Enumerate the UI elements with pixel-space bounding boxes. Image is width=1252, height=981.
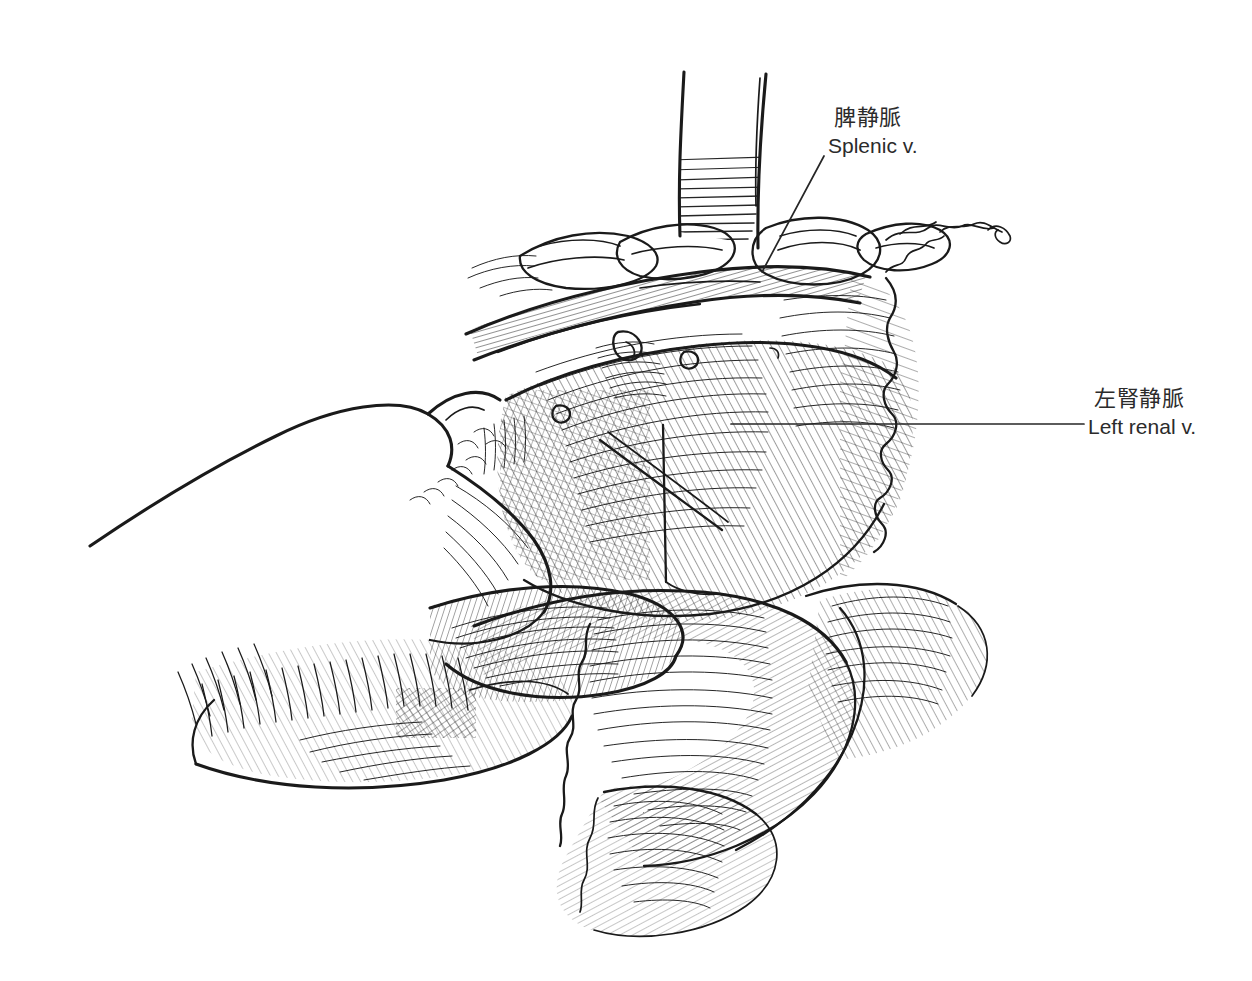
label-splenic-vein-en: Splenic v. (828, 132, 918, 160)
label-left-renal-vein-en: Left renal v. (1088, 413, 1196, 441)
label-left-renal-vein-jp: 左腎静脈 (1088, 385, 1196, 413)
label-splenic-vein: 脾静脈 Splenic v. (828, 104, 918, 160)
bowel-crosshatch-patch (396, 688, 476, 738)
anatomical-illustration: .o{fill:none;stroke:#1a1a1a;stroke-linec… (0, 0, 1252, 981)
label-splenic-vein-jp: 脾静脈 (828, 104, 918, 132)
label-left-renal-vein: 左腎静脈 Left renal v. (1088, 385, 1196, 441)
figure-root: .o{fill:none;stroke:#1a1a1a;stroke-linec… (0, 0, 1252, 981)
